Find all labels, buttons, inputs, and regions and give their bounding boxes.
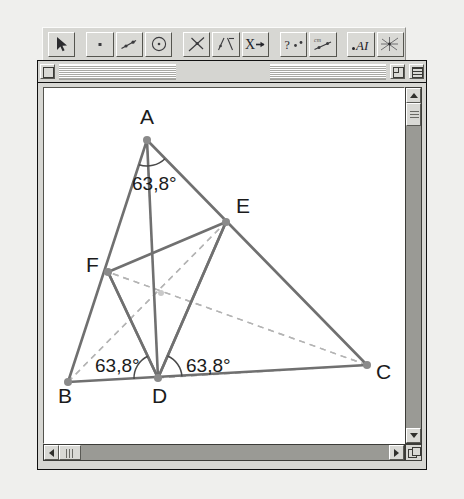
title-bar-stripes-right bbox=[270, 64, 387, 80]
svg-text:?: ? bbox=[284, 38, 289, 52]
scroll-right-button[interactable] bbox=[389, 445, 404, 460]
document-window: ABCDEF63,8°63,8°63,8° bbox=[37, 60, 427, 470]
horizontal-scroll-thumb[interactable] bbox=[59, 445, 81, 460]
chevron-right-icon bbox=[394, 449, 399, 457]
tool-point[interactable] bbox=[86, 32, 113, 57]
tool-circle[interactable] bbox=[145, 32, 172, 57]
vertex-point-D[interactable] bbox=[154, 374, 162, 382]
angle-label-angle-at-D-left[interactable]: 63,8° bbox=[95, 355, 140, 376]
arrow-cursor-icon bbox=[54, 36, 70, 53]
tool-palette: X ? cm AI bbox=[42, 27, 406, 61]
svg-text:cm: cm bbox=[314, 37, 322, 43]
svg-text:X: X bbox=[245, 37, 255, 52]
title-bar-stripes-left bbox=[59, 64, 176, 80]
vertex-label-F: F bbox=[86, 253, 99, 276]
vertex-label-A: A bbox=[140, 105, 154, 128]
text-a-icon: AI bbox=[350, 36, 372, 53]
scroll-left-button[interactable] bbox=[44, 445, 59, 460]
thumb-grip-icon bbox=[410, 111, 419, 118]
x-arrow-icon: X bbox=[244, 36, 266, 53]
toolbar-separator bbox=[76, 44, 85, 45]
window-title bbox=[180, 65, 266, 79]
vertical-scrollbar[interactable] bbox=[405, 87, 422, 444]
calculate-icon: cm bbox=[312, 35, 334, 53]
measure-icon: ? bbox=[283, 36, 305, 53]
scroll-up-button[interactable] bbox=[406, 88, 421, 103]
horizontal-scrollbar[interactable] bbox=[43, 444, 405, 461]
tool-selection-arrow[interactable] bbox=[48, 32, 75, 57]
tool-measure[interactable]: ? bbox=[280, 32, 307, 57]
vertex-point-A[interactable] bbox=[143, 136, 151, 144]
chevron-left-icon bbox=[49, 449, 54, 457]
close-box[interactable] bbox=[40, 64, 55, 79]
vertex-label-B: B bbox=[58, 384, 72, 407]
angle-arc-at-A bbox=[139, 159, 165, 166]
angle-label-angle-at-A[interactable]: 63,8° bbox=[132, 173, 177, 194]
vertex-label-E: E bbox=[236, 194, 250, 217]
thumb-grip-icon bbox=[66, 449, 75, 458]
vertical-scroll-track[interactable] bbox=[406, 103, 421, 428]
collapse-icon bbox=[412, 67, 423, 78]
window-title-bar[interactable] bbox=[38, 61, 426, 83]
vertex-label-C: C bbox=[376, 360, 391, 383]
segment-icon bbox=[119, 36, 139, 53]
angle-arc-at-D-right bbox=[168, 356, 182, 377]
perpendicular-icon bbox=[187, 35, 207, 54]
circle-icon bbox=[149, 35, 169, 53]
vertex-label-D: D bbox=[152, 384, 167, 407]
grow-box-icon bbox=[412, 447, 421, 456]
chevron-down-icon bbox=[410, 433, 418, 438]
macro-icon bbox=[379, 35, 401, 53]
toolbar-separator bbox=[270, 44, 279, 45]
point-icon bbox=[91, 36, 109, 53]
toolbar-separator bbox=[338, 44, 347, 45]
vertex-point-C[interactable] bbox=[363, 361, 371, 369]
tool-segment[interactable] bbox=[116, 32, 143, 57]
dashed-median-CF bbox=[108, 272, 367, 365]
tool-text-label[interactable]: AI bbox=[347, 32, 374, 57]
geometry-canvas[interactable]: ABCDEF63,8°63,8°63,8° bbox=[43, 87, 405, 444]
tool-angle-bisector[interactable] bbox=[212, 32, 239, 57]
horizontal-scroll-track[interactable] bbox=[59, 445, 389, 460]
zoom-box[interactable] bbox=[390, 64, 405, 79]
segment-CA bbox=[147, 140, 367, 365]
tool-macro[interactable] bbox=[377, 32, 404, 57]
scroll-down-button[interactable] bbox=[406, 428, 421, 443]
resize-grow-box[interactable] bbox=[405, 444, 422, 461]
collapse-box[interactable] bbox=[409, 64, 424, 79]
vertex-point-F[interactable] bbox=[104, 268, 112, 276]
application-window: X ? cm AI bbox=[0, 0, 464, 499]
close-icon bbox=[43, 67, 54, 78]
angle-label-angle-at-D-right[interactable]: 63,8° bbox=[186, 355, 231, 376]
tool-transform[interactable]: X bbox=[242, 32, 269, 57]
tool-perpendicular[interactable] bbox=[183, 32, 210, 57]
window-content: ABCDEF63,8°63,8°63,8° bbox=[43, 87, 423, 465]
angle-bisector-icon bbox=[216, 35, 236, 54]
chevron-up-icon bbox=[410, 93, 418, 98]
centroid-point[interactable] bbox=[158, 290, 164, 296]
vertex-point-E[interactable] bbox=[222, 218, 230, 226]
tool-calculate[interactable]: cm bbox=[309, 32, 336, 57]
toolbar-separator bbox=[173, 44, 182, 45]
vertical-scroll-thumb[interactable] bbox=[406, 103, 421, 126]
zoom-icon bbox=[393, 67, 404, 78]
geometry-figure: ABCDEF63,8°63,8°63,8° bbox=[44, 88, 404, 443]
svg-text:AI: AI bbox=[355, 37, 369, 52]
